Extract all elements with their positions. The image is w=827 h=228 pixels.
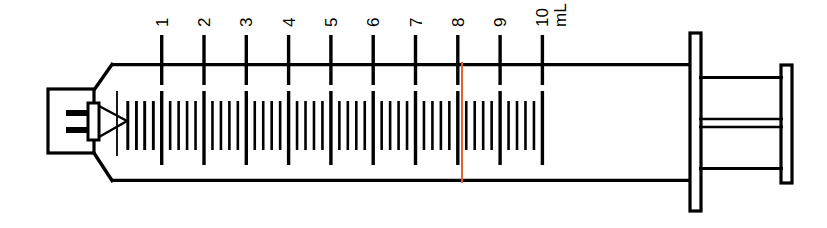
luer-cone-lines xyxy=(99,106,127,137)
taper-top-edge xyxy=(94,63,113,90)
figure-canvas: 12345678910 mL xyxy=(0,0,827,228)
luer-tip-post xyxy=(88,103,99,140)
scale-label-6: 6 xyxy=(364,18,383,27)
luer-tip-assembly xyxy=(48,89,127,153)
thumb-flange xyxy=(690,33,701,211)
scale-label-1: 1 xyxy=(153,18,172,27)
plunger-assembly xyxy=(690,33,792,211)
scale-label-5: 5 xyxy=(322,18,341,27)
scale-label-8: 8 xyxy=(449,18,468,27)
major-tick-group xyxy=(162,35,543,165)
taper-bottom-edge xyxy=(94,153,113,182)
scale-label-3: 3 xyxy=(237,18,256,27)
barrel xyxy=(111,65,700,181)
unit-label: mL xyxy=(551,3,570,27)
scale-label-group: 12345678910 xyxy=(153,8,553,27)
syringe-diagram: 12345678910 mL xyxy=(0,0,827,228)
scale-label-2: 2 xyxy=(195,18,214,27)
scale-label-10: 10 xyxy=(533,8,552,27)
scale-label-9: 9 xyxy=(491,18,510,27)
scale-label-4: 4 xyxy=(280,18,299,27)
finger-flange xyxy=(781,65,792,183)
scale-label-7: 7 xyxy=(407,18,426,27)
